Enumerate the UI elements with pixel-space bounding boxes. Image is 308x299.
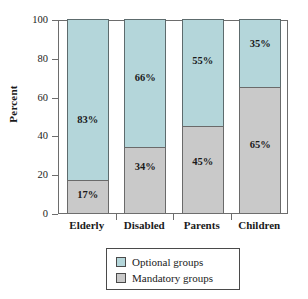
bar-segment-mandatory[interactable]: 45% bbox=[182, 126, 224, 213]
legend-swatch-optional-icon bbox=[116, 257, 126, 267]
bar-group[interactable]: 35%65% bbox=[239, 19, 281, 213]
bar-segment-optional[interactable]: 55% bbox=[182, 19, 224, 126]
y-axis-tick-label: 0 bbox=[14, 209, 48, 219]
bar-segment-mandatory[interactable]: 65% bbox=[239, 87, 281, 213]
bar-group[interactable]: 83%17% bbox=[67, 19, 109, 213]
bar-segment-optional[interactable]: 83% bbox=[67, 19, 109, 180]
x-axis-separator bbox=[231, 214, 232, 220]
legend-item-mandatory: Mandatory groups bbox=[116, 270, 239, 286]
bar-value-label: 17% bbox=[68, 189, 108, 200]
stacked-bar-chart: Percent 020406080100 83%17%66%34%55%45%3… bbox=[0, 0, 308, 299]
bar-segment-mandatory[interactable]: 17% bbox=[67, 180, 109, 213]
bar-value-label: 65% bbox=[240, 139, 280, 150]
y-axis-title: Percent bbox=[7, 69, 19, 139]
x-axis-separator bbox=[116, 214, 117, 220]
bar-value-label: 45% bbox=[183, 156, 223, 167]
bar-segment-mandatory[interactable]: 34% bbox=[124, 147, 166, 213]
bar-value-label: 66% bbox=[125, 72, 165, 83]
x-axis-separator bbox=[173, 214, 174, 220]
bar-value-label: 55% bbox=[183, 55, 223, 66]
chart-legend: Optional groups Mandatory groups bbox=[106, 248, 240, 290]
bar-value-label: 34% bbox=[125, 161, 165, 172]
legend-swatch-mandatory-icon bbox=[116, 273, 126, 283]
y-axis-tick-label: 80 bbox=[14, 54, 48, 64]
plot-area: 83%17%66%34%55%45%35%65% bbox=[58, 20, 288, 214]
y-axis-tick-mark bbox=[52, 214, 58, 215]
y-axis-tick-label: 20 bbox=[14, 170, 48, 180]
y-axis-tick-label: 100 bbox=[14, 15, 48, 25]
bar-segment-optional[interactable]: 66% bbox=[124, 19, 166, 147]
y-axis-tick-label: 60 bbox=[14, 93, 48, 103]
legend-item-optional: Optional groups bbox=[116, 254, 239, 270]
bar-group[interactable]: 66%34% bbox=[124, 19, 166, 213]
x-axis-category-label: Children bbox=[221, 219, 297, 231]
bar-segment-optional[interactable]: 35% bbox=[239, 19, 281, 87]
y-axis-tick-label: 40 bbox=[14, 131, 48, 141]
legend-label-mandatory: Mandatory groups bbox=[132, 272, 213, 284]
legend-label-optional: Optional groups bbox=[132, 256, 203, 268]
bar-value-label: 83% bbox=[68, 114, 108, 125]
bar-group[interactable]: 55%45% bbox=[182, 19, 224, 213]
bar-value-label: 35% bbox=[240, 38, 280, 49]
